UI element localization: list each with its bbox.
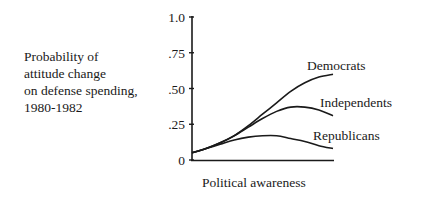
y-tick-label: .75 [168, 46, 185, 61]
x-axis-label: Political awareness [202, 175, 306, 190]
series-line-republicans [192, 135, 333, 152]
series-label-independents: Independents [320, 95, 392, 110]
y-tick-label: .50 [168, 82, 185, 97]
series-line-democrats [192, 74, 333, 153]
series-label-democrats: Democrats [307, 58, 365, 73]
y-tick-label: .25 [168, 117, 185, 132]
series-label-republicans: Republicans [313, 128, 380, 143]
y-tick-label: 0 [178, 153, 185, 168]
y-tick-label: 1.0 [168, 10, 185, 25]
chart: 0.25.50.751.0 DemocratsIndependentsRepub… [0, 0, 424, 198]
